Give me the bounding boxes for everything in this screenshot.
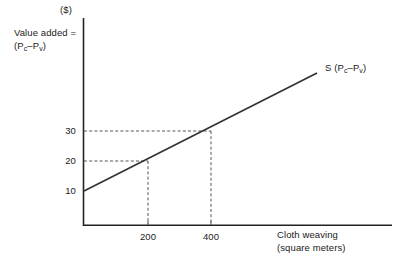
y-axis-title-sub-c: c xyxy=(24,45,28,52)
supply-label-mid: –P xyxy=(348,62,360,73)
y-axis-title-prefix: (P xyxy=(14,40,24,51)
y-tick-label-10: 10 xyxy=(54,185,76,197)
x-axis-title-line1: Cloth weaving xyxy=(277,229,338,240)
supply-label-end: ) xyxy=(363,62,366,73)
x-axis-title-line2: (square meters) xyxy=(277,242,346,253)
x-tick-label-200: 200 xyxy=(133,231,163,243)
supply-curve-line xyxy=(84,73,317,191)
y-axis-title-mid: –P xyxy=(27,40,39,51)
x-axis-title: Cloth weaving (square meters) xyxy=(277,228,346,254)
y-axis-title: Value added = (Pc–Pv) xyxy=(14,26,76,53)
x-tick-label-400: 400 xyxy=(196,231,226,243)
supply-label-sub-c: c xyxy=(344,67,348,74)
y-axis-unit-label: ($) xyxy=(60,4,72,16)
y-tick-label-20: 20 xyxy=(54,155,76,167)
y-tick-label-30: 30 xyxy=(54,125,76,137)
supply-curve-figure: ($) Value added = (Pc–Pv) S (Pc–Pv) 30 2… xyxy=(0,0,405,263)
supply-label-prefix: S (P xyxy=(325,62,344,73)
y-axis-title-line2: (Pc–Pv) xyxy=(14,40,46,51)
y-axis-title-end: ) xyxy=(43,40,46,51)
y-axis-title-line1: Value added = xyxy=(14,27,76,38)
supply-curve-label: S (Pc–Pv) xyxy=(325,62,366,75)
supply-label-sub-v: v xyxy=(359,67,363,74)
y-axis-title-sub-v: v xyxy=(39,45,43,52)
